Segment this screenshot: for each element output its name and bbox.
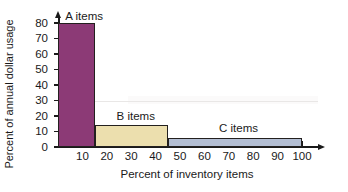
bar-a-items (58, 23, 95, 147)
x-tick-label: 50 (167, 150, 193, 163)
x-tick-label: 40 (143, 150, 169, 163)
y-tick-label: 10 (14, 125, 48, 138)
x-tick-label: 80 (240, 150, 266, 163)
x-axis-arrow-icon (318, 144, 325, 150)
x-tick-label: 30 (118, 150, 144, 163)
x-tick-label: 100 (289, 150, 315, 163)
x-tick-label: 70 (216, 150, 242, 163)
bar-b-items (95, 125, 168, 147)
y-tick-label: 60 (14, 48, 48, 61)
x-tick-label: 10 (69, 150, 95, 163)
scan-artifact-line (60, 101, 318, 102)
abc-inventory-chart: Percent of annual dollar usage 010203040… (0, 0, 348, 192)
y-tick-label: 70 (14, 32, 48, 45)
y-tick-label: 20 (14, 110, 48, 123)
bar-label-c-items: C items (219, 122, 258, 135)
scan-artifact-band (128, 96, 318, 104)
bar-label-a-items: A items (65, 10, 103, 23)
y-tick-label: 30 (14, 94, 48, 107)
y-tick-label: 80 (14, 17, 48, 30)
x-tick-label: 60 (191, 150, 217, 163)
bar-label-b-items: B items (117, 110, 155, 123)
x-axis-title: Percent of inventory items (58, 168, 316, 180)
x-tick-label: 90 (265, 150, 291, 163)
y-tick-label: 40 (14, 79, 48, 92)
y-axis-arrow-icon (55, 11, 61, 18)
y-tick-label: 50 (14, 63, 48, 76)
bar-c-items (168, 138, 302, 147)
x-tick-label: 20 (94, 150, 120, 163)
y-tick-label: 0 (14, 141, 48, 154)
